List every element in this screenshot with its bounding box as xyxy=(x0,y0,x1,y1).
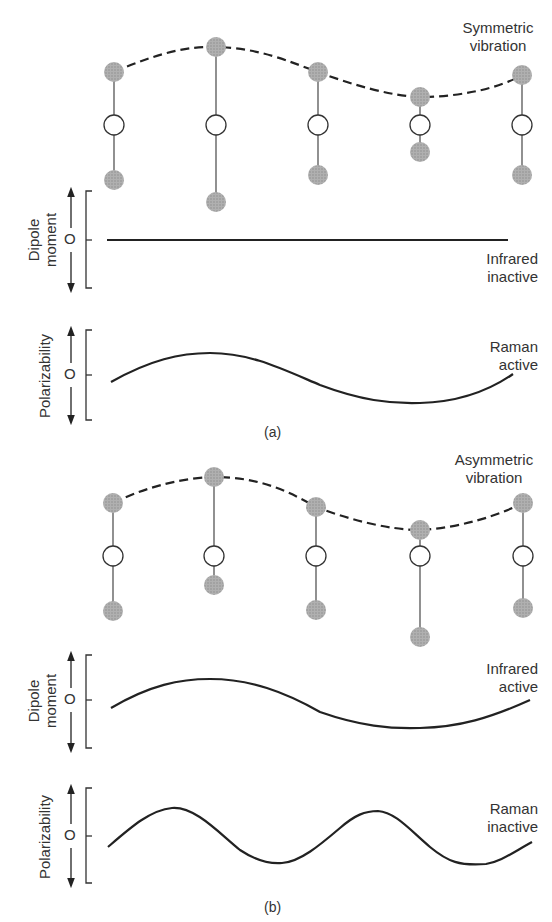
caption-b: (b) xyxy=(264,899,281,915)
axis-label-line-1: Dipole xyxy=(25,195,42,285)
activity-line-1: Infrared xyxy=(448,660,538,678)
panel-a-polarizability-axis xyxy=(71,330,513,420)
polarizability-axis-label-a: Polarizability xyxy=(36,321,54,431)
activity-line-1: Raman xyxy=(448,800,538,818)
activity-line-1: Raman xyxy=(448,338,538,356)
activity-line-2: inactive xyxy=(448,818,538,836)
raman-activity-a: Raman active xyxy=(448,338,538,374)
activity-line-2: active xyxy=(448,356,538,374)
vibration-label-line-2: vibration xyxy=(438,37,552,55)
polarizability-axis-label-b: Polarizability xyxy=(36,782,54,892)
raman-activity-b: Raman inactive xyxy=(448,800,538,836)
axis-label-line-1: Dipole xyxy=(25,656,42,746)
activity-line-2: inactive xyxy=(448,268,538,286)
panel-a-dipole-axis xyxy=(71,191,508,288)
vibration-label-a: Symmetric vibration xyxy=(438,19,552,55)
dipole-zero-a: O xyxy=(64,230,76,247)
vibration-label-line-1: Symmetric xyxy=(438,19,552,37)
polarizability-zero-a: O xyxy=(64,365,76,382)
panel-a-molecules xyxy=(104,37,532,212)
dipole-axis-label-a: Dipole moment xyxy=(25,195,61,285)
vibration-label-line-1: Asymmetric xyxy=(434,451,552,469)
axis-label-line-2: moment xyxy=(42,656,59,746)
vibration-label-line-2: vibration xyxy=(434,469,552,487)
panel-b-molecules xyxy=(103,467,533,647)
axis-label-line-2: moment xyxy=(42,195,59,285)
activity-line-1: Infrared xyxy=(448,250,538,268)
vibration-label-b: Asymmetric vibration xyxy=(434,451,552,487)
polarizability-zero-b: O xyxy=(64,826,76,843)
caption-a: (a) xyxy=(264,424,281,440)
dipole-zero-b: O xyxy=(64,690,76,707)
activity-line-2: active xyxy=(448,678,538,696)
infrared-activity-b: Infrared active xyxy=(448,660,538,696)
dipole-axis-label-b: Dipole moment xyxy=(25,656,61,746)
infrared-activity-a: Infrared inactive xyxy=(448,250,538,286)
